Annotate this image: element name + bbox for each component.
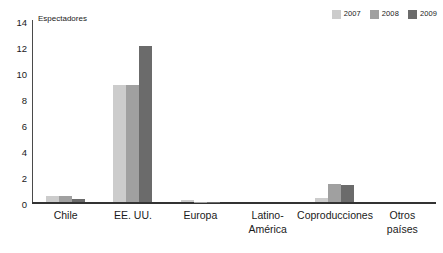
bar-2007 — [46, 196, 59, 203]
x-category-label: Chile — [54, 209, 78, 223]
chart-legend: 200720082009 — [332, 8, 437, 20]
bar-2007 — [315, 198, 328, 203]
x-category-label: Otros países — [387, 209, 418, 236]
bar-group — [369, 20, 436, 202]
legend-label: 2008 — [382, 10, 399, 18]
bar-chart: 200720082009 Espectadores 14121086420 Ch… — [0, 0, 443, 253]
y-tick-label: 12 — [7, 42, 27, 53]
x-axis-category-labels: ChileEE. UU.EuropaLatino- AméricaCoprodu… — [32, 209, 436, 253]
bar-group — [301, 20, 368, 202]
y-tick-label: 10 — [7, 68, 27, 79]
x-category-label: EE. UU. — [114, 209, 152, 223]
legend-item-2007: 2007 — [332, 10, 361, 19]
x-category-label: Europa — [183, 209, 217, 223]
bar-2009 — [207, 202, 220, 203]
bar-2009 — [341, 185, 354, 202]
plot-area: 14121086420 — [32, 20, 436, 204]
bar-group — [234, 20, 301, 202]
bar-2007 — [113, 85, 126, 202]
y-tick-label: 6 — [7, 120, 27, 131]
y-tick-label: 8 — [7, 94, 27, 105]
legend-item-2009: 2009 — [408, 10, 437, 19]
y-tick-label: 2 — [7, 172, 27, 183]
x-axis-line — [32, 202, 436, 204]
bars-layer — [32, 20, 436, 202]
legend-label: 2009 — [420, 10, 437, 18]
legend-swatch-icon — [408, 10, 417, 19]
bar-2007 — [181, 200, 194, 203]
bar-group — [32, 20, 99, 202]
x-category-label: Latino- América — [248, 209, 287, 236]
legend-label: 2007 — [344, 10, 361, 18]
bar-2008 — [126, 85, 139, 202]
bar-2008 — [194, 202, 207, 203]
bar-2009 — [72, 199, 85, 202]
bar-2009 — [139, 46, 152, 202]
bar-2008 — [59, 196, 72, 203]
legend-swatch-icon — [370, 10, 379, 19]
y-tick-label: 14 — [7, 16, 27, 27]
y-tick-label: 4 — [7, 146, 27, 157]
x-category-label: Coproducciones — [297, 209, 373, 223]
y-tick-label: 0 — [7, 199, 27, 210]
legend-swatch-icon — [332, 10, 341, 19]
bar-group — [99, 20, 166, 202]
bar-group — [167, 20, 234, 202]
legend-item-2008: 2008 — [370, 10, 399, 19]
bar-2008 — [328, 184, 341, 202]
